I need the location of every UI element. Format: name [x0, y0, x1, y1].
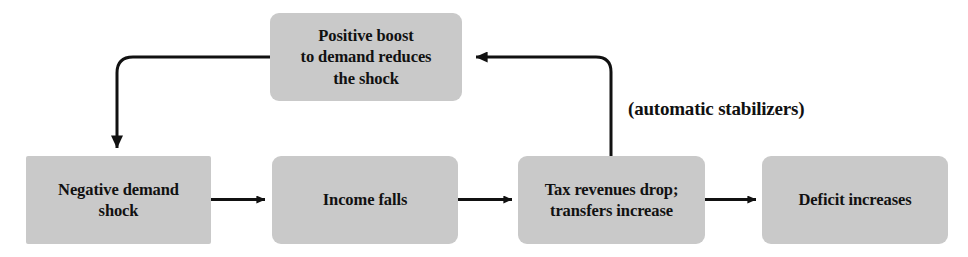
- flow-diagram: Positive boost to demand reduces the sho…: [0, 0, 968, 257]
- annotation-automatic-stabilizers: (automatic stabilizers): [628, 98, 804, 120]
- node-deficit-increases-label: Deficit increases: [799, 189, 912, 210]
- node-positive-boost-label: Positive boost to demand reduces the sho…: [301, 25, 432, 88]
- node-tax-revenues-drop[interactable]: Tax revenues drop; transfers increase: [518, 156, 705, 244]
- node-negative-demand-shock[interactable]: Negative demand shock: [26, 156, 211, 244]
- node-positive-boost[interactable]: Positive boost to demand reduces the sho…: [270, 13, 462, 101]
- node-income-falls[interactable]: Income falls: [272, 156, 458, 244]
- node-income-falls-label: Income falls: [323, 189, 408, 210]
- edge-tax-to-positive-boost: [476, 57, 611, 156]
- node-tax-revenues-drop-label: Tax revenues drop; transfers increase: [545, 179, 679, 221]
- node-negative-demand-shock-label: Negative demand shock: [58, 179, 179, 221]
- node-deficit-increases[interactable]: Deficit increases: [762, 156, 948, 244]
- edge-positive-boost-to-shock: [117, 57, 270, 148]
